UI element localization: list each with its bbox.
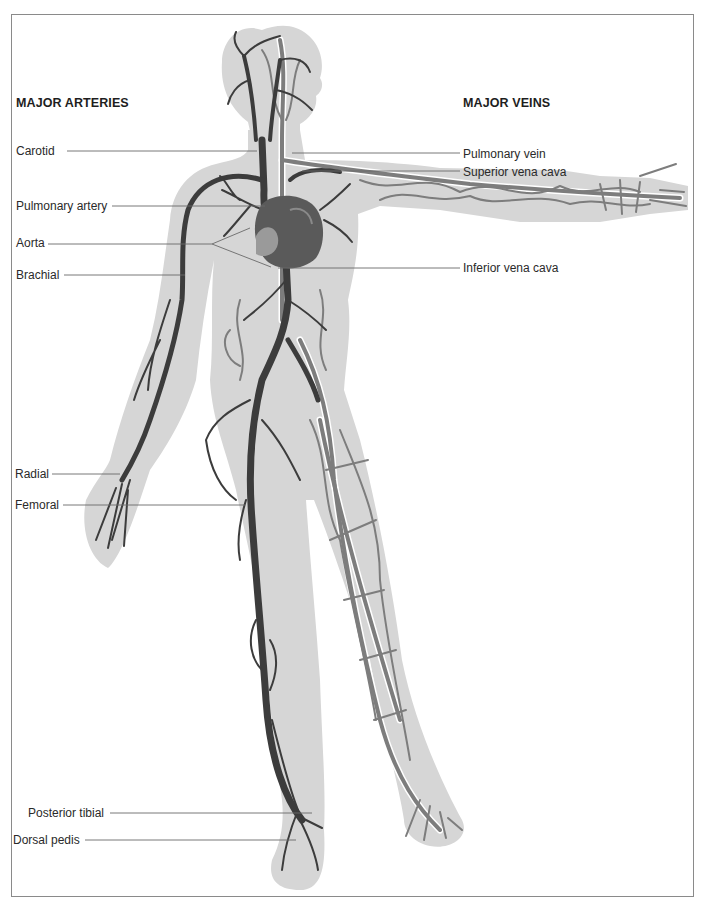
label-carotid: Carotid bbox=[16, 144, 55, 158]
label-inferior-vena-cava: Inferior vena cava bbox=[463, 261, 558, 275]
body-silhouette bbox=[84, 26, 688, 890]
veins-heading: MAJOR VEINS bbox=[463, 96, 550, 110]
label-superior-vena-cava: Superior vena cava bbox=[463, 165, 566, 179]
label-radial: Radial bbox=[15, 467, 49, 481]
label-femoral: Femoral bbox=[15, 498, 59, 512]
label-posterior-tibial: Posterior tibial bbox=[28, 806, 104, 820]
heart bbox=[255, 196, 323, 269]
label-pulmonary-vein: Pulmonary vein bbox=[463, 147, 546, 161]
circulatory-system-illustration bbox=[0, 0, 702, 903]
label-brachial: Brachial bbox=[16, 268, 59, 282]
label-aorta: Aorta bbox=[16, 236, 45, 250]
label-dorsal-pedis: Dorsal pedis bbox=[13, 833, 80, 847]
label-pulmonary-artery: Pulmonary artery bbox=[16, 199, 107, 213]
arteries-heading: MAJOR ARTERIES bbox=[16, 96, 129, 110]
